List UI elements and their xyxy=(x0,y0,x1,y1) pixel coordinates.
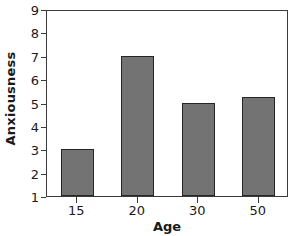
plot-area xyxy=(46,10,288,197)
bar-chart-figure: Anxiousness 123456789 15203050 Age xyxy=(0,0,296,236)
x-axis-title: Age xyxy=(46,219,288,234)
bar-20 xyxy=(121,56,154,196)
bar-15 xyxy=(61,149,94,196)
y-axis-tick-mark xyxy=(41,197,46,198)
x-axis-tick-label: 20 xyxy=(128,204,145,217)
x-axis-tick-label: 15 xyxy=(68,204,85,217)
bar-30 xyxy=(182,103,215,197)
x-axis-tick-label: 50 xyxy=(249,204,266,217)
bar-50 xyxy=(242,97,275,196)
x-axis-tick-label: 30 xyxy=(189,204,206,217)
